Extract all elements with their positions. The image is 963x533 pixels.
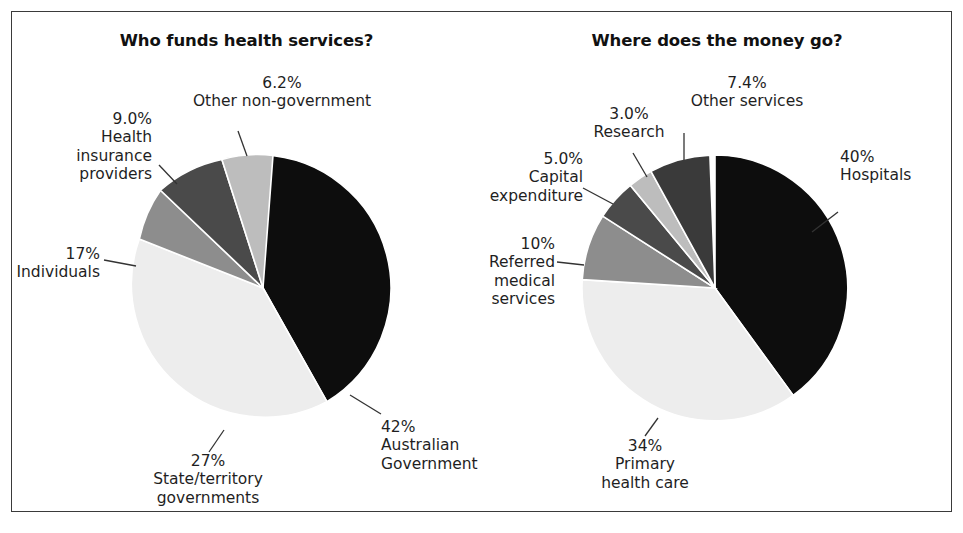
label-health-insurance-providers: 9.0% Health insurance providers	[12, 110, 152, 183]
panel-title-who-funds: Who funds health services?	[11, 31, 482, 50]
label-referred-medical-services: 10% Referred medical services	[420, 235, 555, 308]
panel-title-where-money-goes: Where does the money go?	[482, 31, 952, 50]
label-other-non-government: 6.2% Other non-government	[153, 74, 411, 111]
label-state-territory-governments: 27% State/territory governments	[88, 452, 328, 507]
label-individuals: 17% Individuals	[0, 245, 100, 282]
figure-container: Who funds health services? Where does th…	[0, 0, 963, 533]
label-other-services: 7.4% Other services	[622, 74, 872, 111]
label-hospitals: 40% Hospitals	[840, 148, 955, 185]
label-capital-expenditure: 5.0% Capital expenditure	[448, 150, 583, 205]
label-australian-government: 42% Australian Government	[381, 418, 501, 473]
label-primary-health-care: 34% Primary health care	[525, 437, 765, 492]
